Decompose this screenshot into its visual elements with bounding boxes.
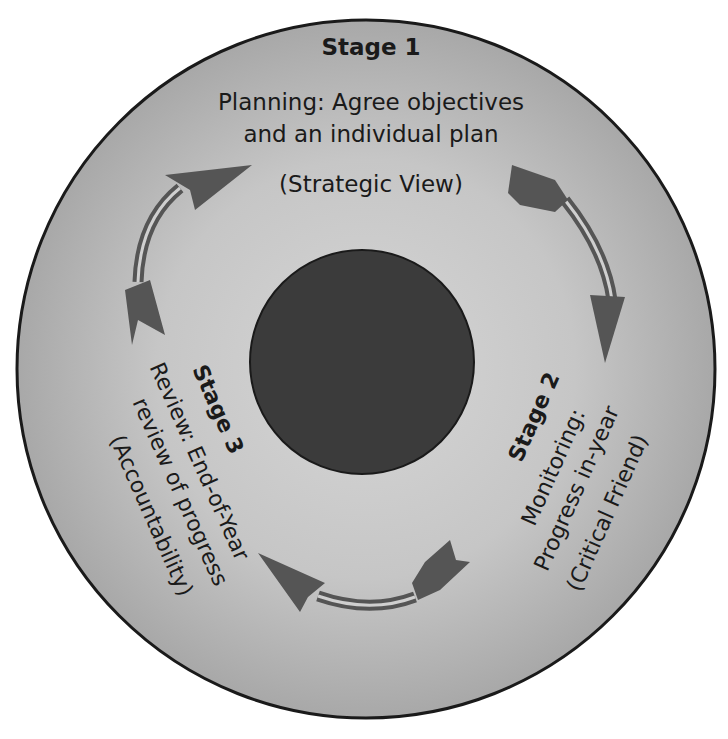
stage-1-line-1: Planning: Agree objectives	[218, 89, 524, 115]
stage-1-title: Stage 1	[321, 34, 420, 60]
cycle-diagram: Stage 1 Planning: Agree objectives and a…	[0, 0, 728, 739]
core-circle	[250, 250, 474, 474]
stage-1-role: (Strategic View)	[279, 171, 463, 197]
stage-1-line-2: and an individual plan	[243, 121, 498, 147]
